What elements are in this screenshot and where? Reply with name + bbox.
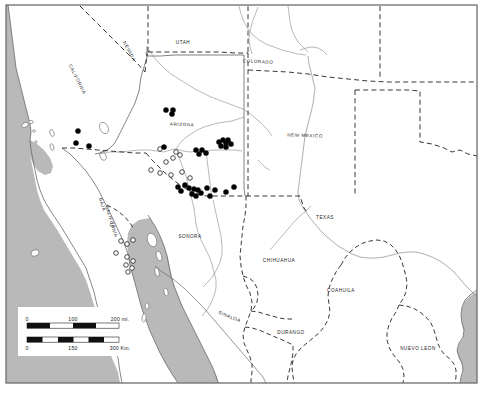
open-circle-symbol: [131, 259, 136, 264]
label-chihuahua: CHIHUAHUA: [263, 258, 296, 263]
label-arizona: ARIZONA: [170, 122, 195, 128]
filled-circle-symbol: [178, 188, 183, 193]
filled-circle-symbol: [163, 107, 168, 112]
open-circle-symbol: [180, 170, 185, 175]
filled-circle-symbol: [73, 140, 78, 145]
label-coahuila: COAHUILA: [327, 288, 355, 293]
filled-circle-symbol: [198, 190, 203, 195]
map-canvas: 0 100 200 mi. 0 150 300 Km. NEVADAUTAHCO…: [0, 0, 483, 396]
filled-circle-symbol: [223, 144, 228, 149]
filled-circle-symbol: [228, 141, 233, 146]
open-circle-symbol: [171, 156, 176, 161]
label-sonora: SONORA: [178, 234, 202, 239]
open-circle-symbol: [149, 168, 154, 173]
open-circle-symbol: [174, 150, 179, 155]
open-circle-symbol: [188, 176, 193, 181]
filled-circle-symbol: [186, 185, 191, 190]
distribution-map-figure: 0 100 200 mi. 0 150 300 Km. NEVADAUTAHCO…: [0, 0, 483, 396]
filled-circle-symbol: [218, 143, 223, 148]
filled-circle-symbol: [169, 111, 174, 116]
scale-bar-kilometers: [27, 337, 119, 342]
open-circle-symbol: [130, 266, 135, 271]
open-circle-symbol: [164, 160, 169, 165]
label-durango: DURANGO: [277, 330, 304, 335]
filled-circle-symbol: [231, 184, 236, 189]
filled-circle-symbol: [203, 150, 208, 155]
filled-circle-symbol: [223, 189, 228, 194]
scale-km-mid: 150: [68, 345, 77, 351]
open-circle-symbol: [114, 251, 119, 256]
filled-circle-symbol: [204, 185, 209, 190]
scale-miles-mid: 100: [68, 316, 77, 322]
open-circle-symbol: [131, 238, 136, 243]
filled-circle-symbol: [212, 187, 217, 192]
scale-miles-zero: 0: [25, 316, 28, 322]
open-circle-symbol: [178, 153, 183, 158]
scale-bar: 0 100 200 mi. 0 150 300 Km.: [18, 307, 134, 356]
map-body: 0 100 200 mi. 0 150 300 Km. NEVADAUTAHCO…: [6, 5, 477, 383]
filled-circle-symbol: [193, 193, 198, 198]
scale-km-end: 300 Km.: [110, 345, 131, 351]
open-circle-symbol: [124, 263, 129, 268]
scale-km-zero: 0: [25, 345, 28, 351]
filled-circle-symbol: [161, 144, 166, 149]
filled-circle-symbol: [75, 128, 80, 133]
open-circle-symbol: [119, 239, 124, 244]
label-utah: UTAH: [176, 40, 190, 45]
scale-bar-miles: [27, 323, 119, 328]
label-texas: TEXAS: [316, 215, 334, 220]
filled-circle-symbol: [86, 143, 91, 148]
scale-miles-end: 200 mi.: [111, 316, 129, 322]
label-nuevo-leon: NUEVO LEON: [400, 346, 436, 351]
filled-circle-symbol: [207, 193, 212, 198]
open-circle-symbol: [169, 173, 174, 178]
open-circle-symbol: [125, 242, 130, 247]
open-circle-symbol: [126, 270, 131, 275]
open-circle-symbol: [158, 171, 163, 176]
open-circle-symbol: [125, 255, 130, 260]
